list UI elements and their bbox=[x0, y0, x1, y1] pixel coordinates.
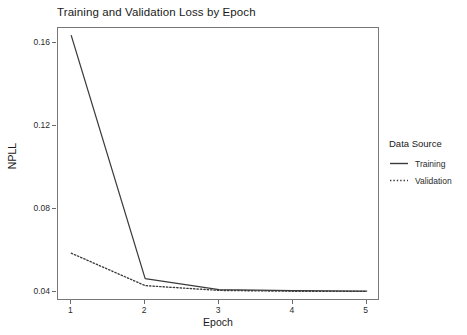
legend-label-training: Training bbox=[415, 159, 445, 169]
plot-lines bbox=[58, 28, 380, 301]
legend-title: Data Source bbox=[389, 138, 467, 149]
solid-line-icon bbox=[389, 158, 409, 169]
x-axis-tick-mark bbox=[218, 300, 219, 304]
x-axis-tick-label: 3 bbox=[216, 305, 221, 315]
series-line-training bbox=[71, 36, 366, 291]
y-axis-tick-marks bbox=[0, 27, 57, 300]
y-axis-tick-mark bbox=[52, 291, 56, 292]
legend-item-validation[interactable]: Validation bbox=[389, 173, 467, 188]
x-axis-tick-mark bbox=[366, 300, 367, 304]
series-line-validation bbox=[71, 253, 366, 291]
legend-label-validation: Validation bbox=[415, 176, 452, 186]
x-axis-tick-label: 1 bbox=[68, 305, 73, 315]
legend: Data Source Training Validation bbox=[389, 138, 467, 190]
x-axis-tick-label: 5 bbox=[363, 305, 368, 315]
dotted-line-icon bbox=[389, 175, 409, 186]
plot-panel bbox=[57, 27, 379, 300]
x-axis-tick-label: 4 bbox=[289, 305, 294, 315]
x-axis-tick-label: 2 bbox=[142, 305, 147, 315]
legend-item-training[interactable]: Training bbox=[389, 156, 467, 171]
y-axis-tick-mark bbox=[52, 125, 56, 126]
y-axis-tick-mark bbox=[52, 42, 56, 43]
x-axis-title: Epoch bbox=[57, 316, 379, 328]
chart-title: Training and Validation Loss by Epoch bbox=[57, 6, 256, 18]
y-axis-tick-mark bbox=[52, 208, 56, 209]
chart-container: Training and Validation Loss by Epoch NP… bbox=[0, 0, 467, 335]
x-axis-tick-mark bbox=[292, 300, 293, 304]
x-axis-tick-mark bbox=[144, 300, 145, 304]
x-axis-tick-mark bbox=[70, 300, 71, 304]
